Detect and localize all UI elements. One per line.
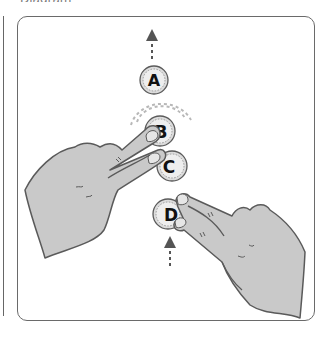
arrow-up-into-D: [164, 236, 176, 266]
coin-label: A: [148, 71, 161, 90]
left-hand-icon: [25, 126, 166, 258]
coin-hands-illustration: A B C D: [0, 0, 330, 338]
coin-a: A: [140, 66, 168, 94]
right-hand-icon: [174, 194, 305, 318]
arrow-up-from-A: [146, 29, 158, 62]
